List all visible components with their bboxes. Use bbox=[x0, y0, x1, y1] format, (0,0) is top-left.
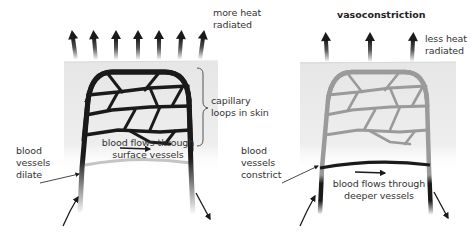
more-heat-line2: radiated bbox=[213, 19, 261, 31]
dilate-line3: dilate bbox=[16, 169, 50, 181]
less-heat-label: less heat radiated bbox=[425, 33, 467, 57]
vessels-dilate-label: blood vessels dilate bbox=[16, 145, 50, 181]
heat-arrows-icon bbox=[321, 32, 419, 62]
vasoconstriction-title: vasoconstriction bbox=[337, 9, 426, 20]
capillary-line1: capillary bbox=[211, 95, 269, 107]
more-heat-line1: more heat bbox=[213, 7, 261, 19]
thermoregulation-diagram: more heat radiated capillary loops in sk… bbox=[0, 0, 474, 232]
deep-flow-line1: blood flows through bbox=[327, 178, 431, 190]
deep-flow-line2: deeper vessels bbox=[327, 190, 431, 202]
capillary-loops-label: capillary loops in skin bbox=[211, 95, 269, 119]
constrict-line1: blood bbox=[241, 145, 281, 157]
constrict-line2: vessels bbox=[241, 157, 281, 169]
vessels-constrict-label: blood vessels constrict bbox=[241, 145, 281, 181]
surface-flow-label: blood flows through surface vessels bbox=[96, 137, 200, 161]
constrict-line3: constrict bbox=[241, 169, 281, 181]
less-heat-line1: less heat bbox=[425, 33, 467, 45]
surface-flow-line2: surface vessels bbox=[96, 149, 200, 161]
dilate-line1: blood bbox=[16, 145, 50, 157]
dilate-line2: vessels bbox=[16, 157, 50, 169]
capillary-line2: loops in skin bbox=[211, 107, 269, 119]
less-heat-line2: radiated bbox=[425, 45, 467, 57]
deep-flow-label: blood flows through deeper vessels bbox=[327, 178, 431, 202]
left-panel bbox=[40, 29, 218, 226]
more-heat-label: more heat radiated bbox=[213, 7, 261, 31]
surface-flow-line1: blood flows through bbox=[96, 137, 200, 149]
heat-arrows-icon bbox=[67, 29, 209, 60]
